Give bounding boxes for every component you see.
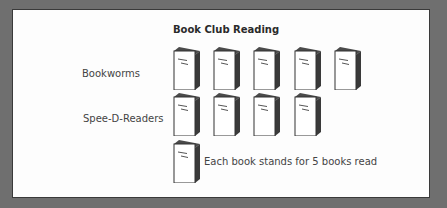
book-icon <box>334 46 362 90</box>
row-label-spee-d-readers: Spee-D-Readers <box>83 113 164 124</box>
book-icon <box>294 46 322 90</box>
book-icon <box>213 92 241 136</box>
book-icon <box>173 92 201 136</box>
chart-title: Book Club Reading <box>173 24 279 35</box>
book-icon <box>294 92 322 136</box>
legend-book-icon <box>173 139 201 183</box>
book-icon <box>253 92 281 136</box>
row-label-bookworms: Bookworms <box>82 68 140 79</box>
legend-text: Each book stands for 5 books read <box>204 156 377 167</box>
book-icon <box>253 46 281 90</box>
book-icon <box>213 46 241 90</box>
book-icon <box>173 46 201 90</box>
chart-panel: Book Club Reading Bookworms Spee-D-Reade… <box>12 9 430 198</box>
